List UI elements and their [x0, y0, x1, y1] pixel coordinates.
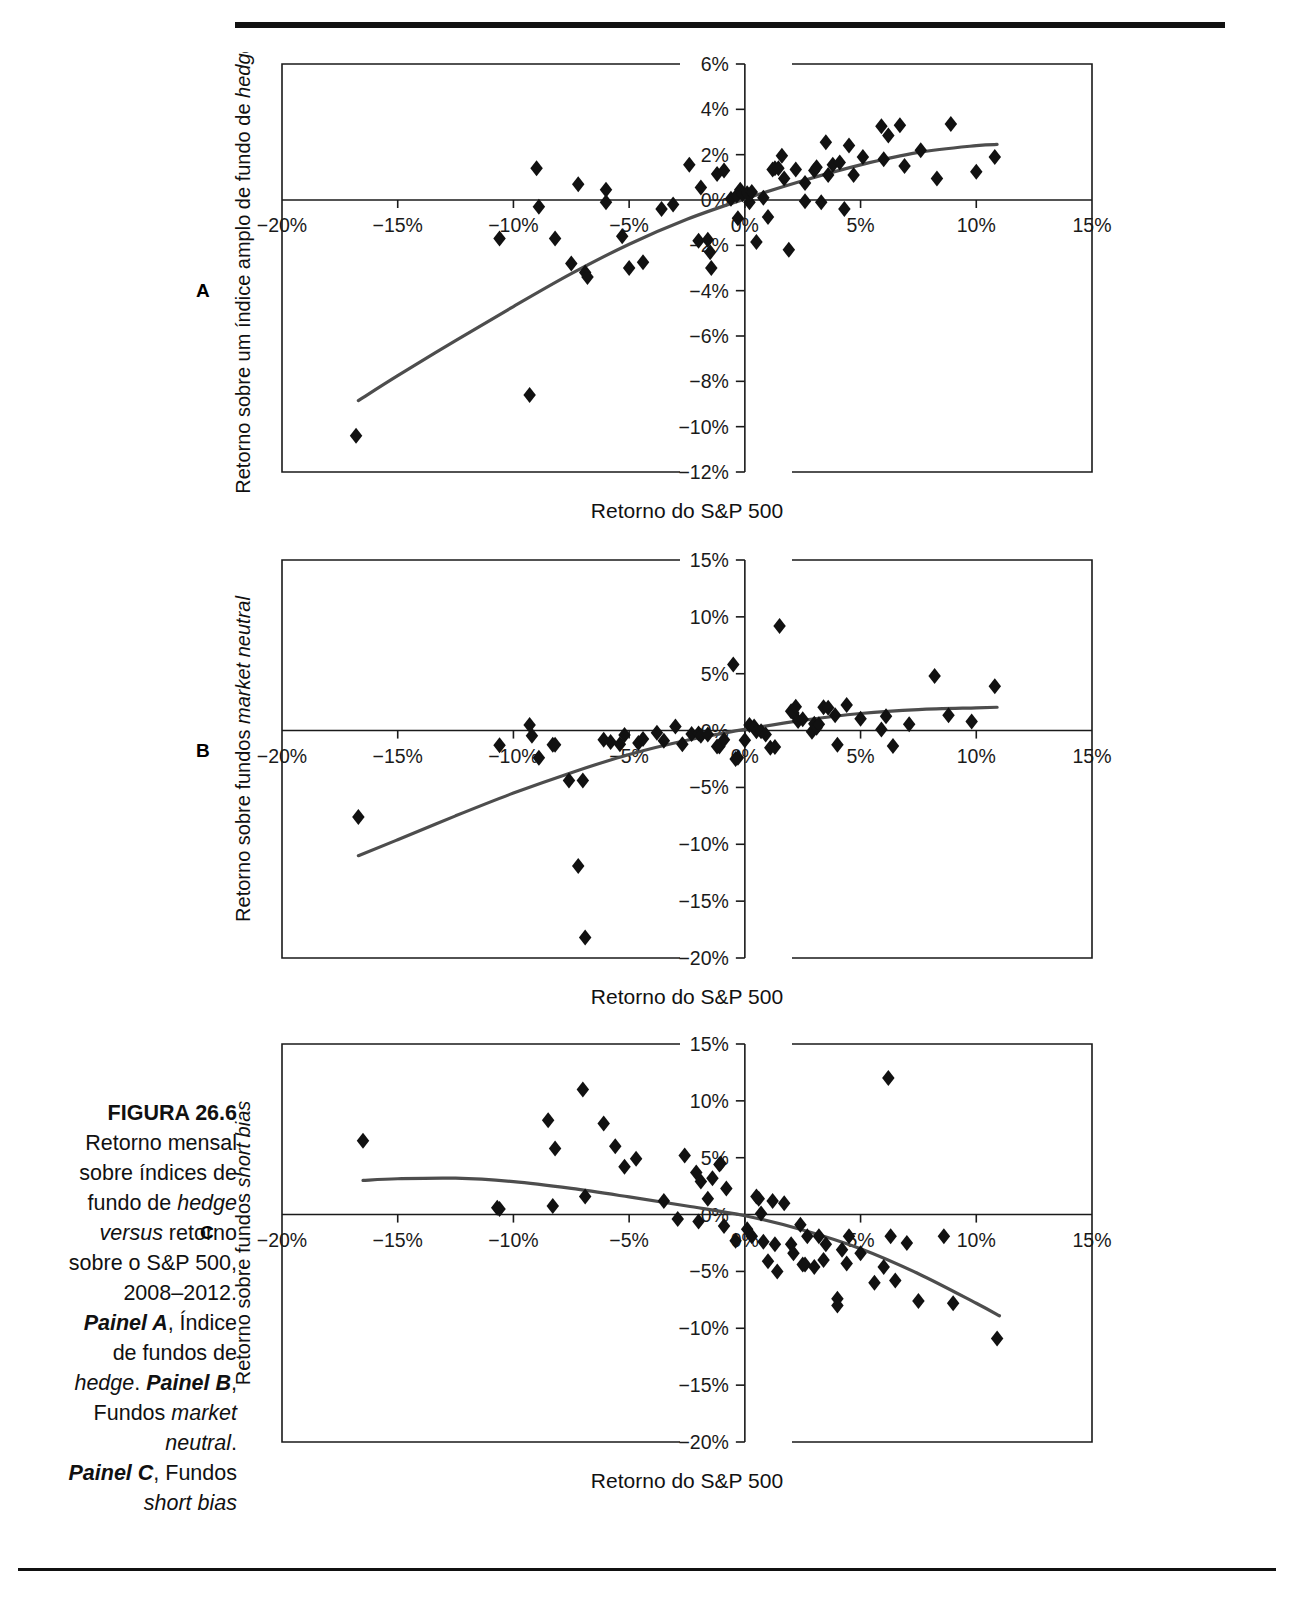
x-tick-label: 10%: [957, 214, 996, 236]
data-point: [352, 809, 364, 825]
x-tick-label: 15%: [1072, 1229, 1111, 1251]
x-tick-label: −10%: [488, 1229, 538, 1251]
data-point: [600, 194, 612, 210]
data-point: [843, 138, 855, 154]
data-point: [655, 201, 667, 217]
data-point: [815, 194, 827, 210]
scatter-points: [352, 618, 1001, 946]
x-tick-label: −10%: [488, 214, 538, 236]
data-point: [637, 254, 649, 270]
data-point: [799, 1257, 811, 1273]
data-point: [898, 158, 910, 174]
x-tick-label: 5%: [846, 745, 874, 767]
data-point: [678, 1147, 690, 1163]
data-point: [757, 1234, 769, 1250]
data-point: [889, 1273, 901, 1289]
y-tick-label: −4%: [689, 280, 729, 302]
panel-c-chart: −20%−15%−10%−5%0%5%10%15%15%10%5%0%−5%−1…: [232, 1032, 1222, 1494]
data-point: [762, 209, 774, 225]
data-point: [799, 193, 811, 209]
data-point: [667, 197, 679, 213]
data-point: [549, 737, 561, 753]
data-point: [991, 1331, 1003, 1347]
y-tick-label: 4%: [701, 98, 729, 120]
data-point: [549, 231, 561, 247]
x-tick-label: 15%: [1072, 214, 1111, 236]
data-point: [790, 161, 802, 177]
y-tick-label: 15%: [690, 549, 729, 571]
data-point: [945, 116, 957, 132]
data-point: [533, 199, 545, 215]
data-point: [783, 242, 795, 258]
x-tick-label: −5%: [609, 214, 649, 236]
data-point: [683, 157, 695, 173]
x-tick-label: −15%: [373, 214, 423, 236]
data-point: [840, 697, 852, 713]
regression-curve: [358, 144, 997, 400]
data-point: [901, 1235, 913, 1251]
data-point: [771, 1263, 783, 1279]
data-point: [669, 719, 681, 735]
y-tick-label: −12%: [678, 461, 728, 483]
data-point: [630, 1151, 642, 1167]
plot-frame: [282, 64, 1092, 472]
y-tick-label: −10%: [678, 833, 728, 855]
x-tick-label: −15%: [373, 1229, 423, 1251]
scatter-points: [357, 1070, 1004, 1346]
data-point: [931, 170, 943, 186]
data-point: [350, 428, 362, 444]
x-axis-title: Retorno do S&P 500: [591, 1469, 783, 1492]
y-tick-label: −10%: [678, 1317, 728, 1339]
data-point: [750, 234, 762, 250]
panel-a-letter: A: [196, 280, 210, 302]
x-tick-label: 5%: [846, 214, 874, 236]
data-point: [577, 773, 589, 789]
data-point: [572, 176, 584, 192]
scatter-points: [350, 116, 1001, 444]
panel-a-svg: −20%−15%−10%−5%0%5%10%15%6%4%2%0%−2%−4%−…: [232, 52, 1222, 524]
x-tick-label: −20%: [257, 214, 307, 236]
data-point: [547, 1198, 559, 1214]
y-tick-label: 15%: [690, 1033, 729, 1055]
panel-a-chart: −20%−15%−10%−5%0%5%10%15%6%4%2%0%−2%−4%−…: [232, 52, 1222, 524]
data-point: [549, 1141, 561, 1157]
y-tick-label: −10%: [678, 416, 728, 438]
y-tick-label: −15%: [678, 890, 728, 912]
data-point: [623, 260, 635, 276]
y-tick-label: −5%: [689, 776, 729, 798]
data-point: [579, 930, 591, 946]
data-point: [820, 134, 832, 150]
x-tick-label: −20%: [257, 1229, 307, 1251]
y-tick-label: −8%: [689, 370, 729, 392]
data-point: [776, 148, 788, 164]
bottom-rule: [18, 1568, 1276, 1571]
data-point: [868, 1275, 880, 1291]
data-point: [938, 1228, 950, 1244]
y-tick-label: −5%: [689, 1260, 729, 1282]
y-tick-label: 6%: [701, 53, 729, 75]
data-point: [658, 1193, 670, 1209]
data-point: [766, 1193, 778, 1209]
data-point: [847, 167, 859, 183]
top-rule: [235, 22, 1225, 28]
x-tick-label: 10%: [957, 1229, 996, 1251]
data-point: [831, 737, 843, 753]
data-point: [915, 142, 927, 158]
data-point: [672, 1211, 684, 1227]
x-tick-label: 15%: [1072, 745, 1111, 767]
x-axis-ticks: −20%−15%−10%−5%0%5%10%15%: [257, 1215, 1112, 1251]
data-point: [705, 260, 717, 276]
panel-b-chart: −20%−15%−10%−5%0%5%10%15%15%10%5%0%−5%−1…: [232, 548, 1222, 1010]
data-point: [542, 1112, 554, 1128]
data-point: [565, 255, 577, 271]
svg-text:Retorno sobre um índice amplo: Retorno sobre um índice amplo de fundo d…: [232, 52, 254, 494]
data-point: [597, 1116, 609, 1132]
y-axis-title: Retorno sobre um índice amplo de fundo d…: [232, 52, 254, 494]
panel-b-svg: −20%−15%−10%−5%0%5%10%15%15%10%5%0%−5%−1…: [232, 548, 1222, 1010]
y-axis-title: Retorno sobre fundos market neutral: [232, 596, 254, 922]
data-point: [530, 160, 542, 176]
svg-text:Retorno sobre fundos market ne: Retorno sobre fundos market neutral: [232, 596, 254, 922]
y-tick-label: 10%: [690, 1090, 729, 1112]
data-point: [357, 1133, 369, 1149]
data-point: [887, 738, 899, 754]
